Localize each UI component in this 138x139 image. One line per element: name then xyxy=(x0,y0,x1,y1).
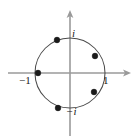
root-point-upper-left xyxy=(54,37,60,43)
figure-canvas xyxy=(0,0,138,139)
label-imaginary-minus-i: −i xyxy=(66,106,76,117)
complex-plane-unit-circle-figure: i 1 −1 −i xyxy=(0,0,138,139)
root-point-lower-left xyxy=(55,105,61,111)
label-real-minus-one: −1 xyxy=(19,75,31,86)
label-real-one: 1 xyxy=(103,75,109,86)
root-point-minus-one xyxy=(35,70,41,76)
root-point-upper-right xyxy=(92,53,98,59)
label-imaginary-unit-i: i xyxy=(72,28,75,39)
root-point-lower-right xyxy=(91,89,97,95)
root-points-group xyxy=(35,37,98,111)
